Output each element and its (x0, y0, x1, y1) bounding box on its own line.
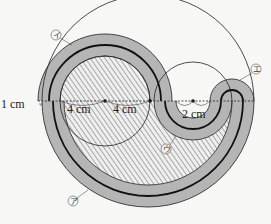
svg-text:ウ: ウ (163, 145, 171, 154)
label-4cm-left: 4 cm (67, 102, 91, 116)
marker-イ: イ (51, 30, 72, 45)
marker-エ: エ (240, 64, 261, 80)
svg-text:ア: ア (70, 197, 78, 206)
svg-text:イ: イ (53, 31, 61, 40)
label-2cm: 2 cm (182, 107, 206, 121)
svg-text:エ: エ (253, 65, 261, 74)
geometry-diagram: 1 cm 4 cm 4 cm 2 cm イ エ ウ ア (0, 0, 271, 224)
marker-ア: ア (68, 190, 88, 206)
label-1cm: 1 cm (1, 97, 25, 111)
label-4cm-right: 4 cm (113, 102, 137, 116)
